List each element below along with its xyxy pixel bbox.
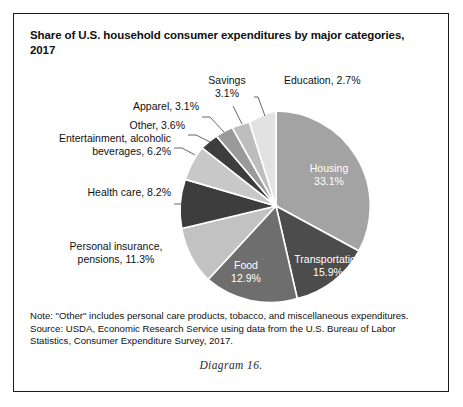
- leader-line-entertainment: [174, 148, 195, 155]
- label-other: Other, 3.6%: [64, 119, 185, 132]
- label-entertainment-line2: beverages, 6.2%: [14, 145, 171, 158]
- label-personal-insurance-line1: Personal insurance,: [52, 240, 180, 253]
- label-housing-line2: 33.1%: [289, 175, 369, 188]
- label-food-line1: Food: [218, 259, 274, 272]
- label-savings-line1: Savings: [192, 74, 262, 87]
- leader-line-apparel: [202, 117, 224, 132]
- label-education: Education, 2.7%: [284, 74, 360, 87]
- label-entertainment-line1: Entertainment, alcoholic: [14, 132, 171, 145]
- label-housing-line1: Housing: [289, 162, 369, 175]
- source-text-line2: Statistics, Consumer Expenditure Survey,…: [30, 335, 435, 348]
- label-transportation-line1: Transportation: [282, 253, 374, 266]
- label-food-line2: 12.9%: [218, 272, 274, 285]
- label-health-care: Health care, 8.2%: [34, 186, 171, 199]
- leader-line-other: [188, 135, 210, 142]
- diagram-caption: Diagram 16.: [14, 359, 448, 371]
- leader-line-savings: [233, 106, 242, 124]
- label-transportation-line2: 15.9%: [282, 266, 374, 279]
- source-text-line1: Source: USDA, Economic Research Service …: [30, 323, 435, 336]
- footer-notes: Note: "Other" includes personal care pro…: [30, 310, 435, 348]
- label-savings-line2: 3.1%: [192, 87, 262, 100]
- pie-chart: Education, 2.7% Savings 3.1% Apparel, 3.…: [14, 14, 448, 314]
- label-apparel: Apparel, 3.1%: [74, 100, 199, 113]
- label-personal-insurance-line2: pensions, 11.3%: [52, 253, 180, 266]
- note-text: Note: "Other" includes personal care pro…: [30, 310, 435, 323]
- diagram-frame: Share of U.S. household consumer expendi…: [13, 13, 449, 392]
